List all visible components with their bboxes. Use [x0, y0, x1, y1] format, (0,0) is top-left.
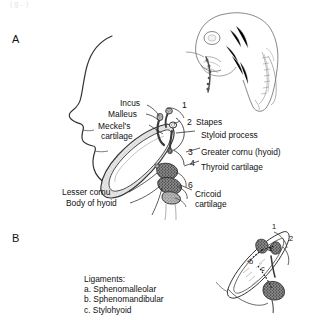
label-greater-cornu: Greater cornu (hyoid) — [201, 148, 281, 158]
panel-b-letter: B — [12, 232, 20, 244]
figure-pharyngeal-arch-derivatives: ( g .. ) — [0, 0, 313, 327]
label-lesser-cornu: Lesser cornu — [62, 188, 110, 198]
label-incus: Incus — [120, 99, 140, 109]
arch-number-3: 3 — [188, 147, 193, 157]
label-styloid-process: Styloid process — [201, 131, 258, 141]
panel-a-letter: A — [12, 33, 20, 45]
ligaments-legend-title: Ligaments: — [84, 274, 164, 284]
embryo-head-sketch — [186, 13, 278, 112]
ligaments-legend-item-c: c. Stylohyoid — [84, 305, 164, 315]
label-cricoid-line2: cartilage — [195, 200, 227, 210]
ligament-mark-c: c — [261, 264, 265, 273]
ligaments-legend-item-b: b. Sphenomandibular — [84, 294, 164, 304]
panel-b-arch-number-1: 1 — [272, 222, 276, 231]
arch-number-4: 4 — [190, 158, 195, 168]
arch-number-2: 2 — [187, 117, 192, 127]
ligaments-legend: Ligaments: a. Sphenomalleolar b. Sphenom… — [84, 274, 164, 315]
arch-number-1: 1 — [182, 100, 187, 110]
panel-b-arch-number-2: 2 — [289, 234, 293, 243]
label-meckels-cartilage-line2: cartilage — [101, 132, 133, 142]
label-body-of-hyoid: Body of hyoid — [66, 199, 117, 209]
panel-b-artwork — [216, 232, 289, 313]
fetal-face-profile — [69, 36, 112, 185]
ligaments-legend-item-a: a. Sphenomalleolar — [84, 284, 164, 294]
label-stapes: Stapes — [196, 118, 222, 128]
ligament-mark-a: a — [268, 244, 272, 253]
label-malleus: Malleus — [108, 110, 137, 120]
ligament-mark-b: b — [249, 257, 253, 266]
label-thyroid-cartilage: Thyroid cartilage — [201, 163, 263, 173]
arch-number-6: 6 — [188, 180, 193, 190]
